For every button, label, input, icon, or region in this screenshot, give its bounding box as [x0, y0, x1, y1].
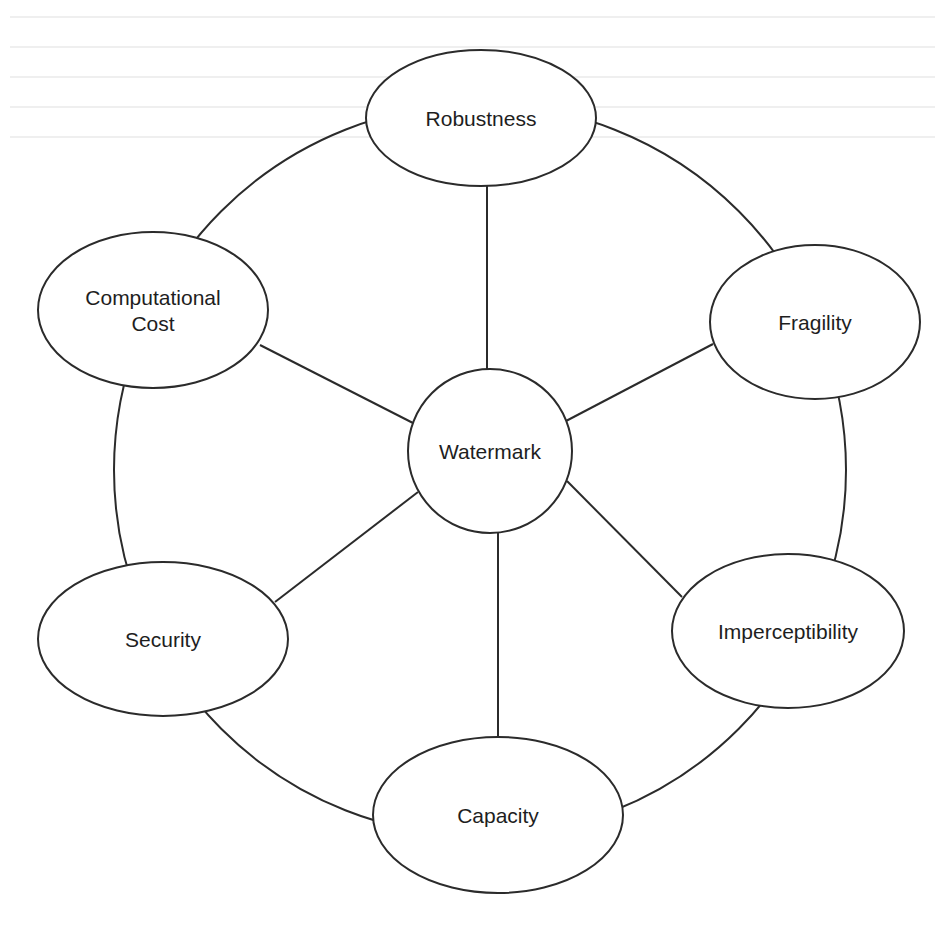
watermark-properties-diagram: RobustnessFragilityImperceptibilityCapac…: [0, 0, 945, 926]
imperceptibility-label: Imperceptibility: [718, 620, 859, 643]
robustness-label: Robustness: [426, 107, 537, 130]
computational-cost-label: Cost: [131, 312, 174, 335]
capacity-label: Capacity: [457, 804, 539, 827]
center-node: Watermark: [408, 369, 572, 533]
node-fragility: Fragility: [710, 245, 920, 399]
spoke-to-computational-cost: [260, 345, 413, 423]
node-watermark: Watermark: [408, 369, 572, 533]
computational-cost-label: Computational: [85, 286, 220, 309]
spoke-to-security: [275, 492, 418, 602]
node-imperceptibility: Imperceptibility: [672, 554, 904, 708]
node-robustness: Robustness: [366, 50, 596, 186]
watermark-label: Watermark: [439, 440, 541, 463]
node-security: Security: [38, 562, 288, 716]
spoke-to-fragility: [566, 344, 713, 421]
computational-cost-ellipse: [38, 232, 268, 388]
security-label: Security: [125, 628, 201, 651]
fragility-label: Fragility: [778, 311, 852, 334]
node-capacity: Capacity: [373, 737, 623, 893]
spoke-to-imperceptibility: [567, 481, 682, 597]
node-computational-cost: ComputationalCost: [38, 232, 268, 388]
